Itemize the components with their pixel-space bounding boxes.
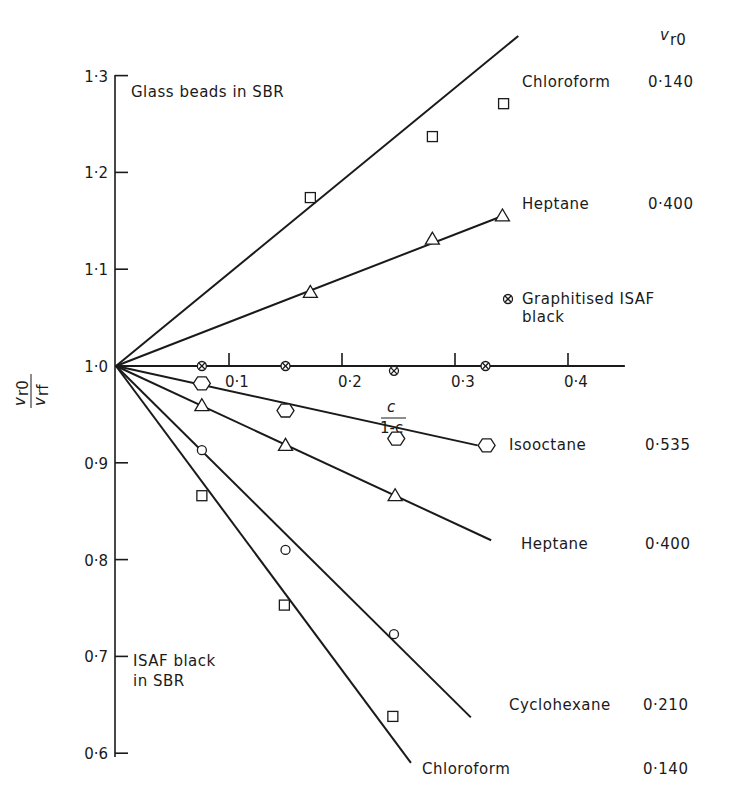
chart: 0·60·70·80·91·01·11·21·3 0·10·20·30·4 v … <box>0 0 731 802</box>
x-tick-label: 0·3 <box>451 373 475 391</box>
label-heptane-glass: Heptane <box>522 195 589 213</box>
vr0-column-header: v r0 <box>660 26 686 49</box>
y-tick-label: 0·8 <box>84 552 108 570</box>
fit-line <box>116 366 411 763</box>
triangle-marker <box>495 209 509 221</box>
circle-cross-marker <box>281 362 290 371</box>
label-chloroform-glass: Chloroform <box>522 73 610 91</box>
x-tick-label: 0·4 <box>564 373 588 391</box>
circle-cross-marker <box>481 362 490 371</box>
value-heptane-isaf: 0·400 <box>645 535 690 553</box>
data-markers <box>193 99 512 722</box>
value-heptane-glass: 0·400 <box>648 195 693 213</box>
x-axis-label: c 1-c <box>380 398 406 437</box>
circle-cross-legend-icon <box>504 295 513 304</box>
y-tick-label: 1·2 <box>84 164 108 182</box>
y-tick-label: 0·7 <box>84 648 108 666</box>
y-tick-label: 0·6 <box>84 745 108 763</box>
y-tick-label: 1·0 <box>84 358 108 376</box>
value-chloroform-glass: 0·140 <box>648 73 693 91</box>
square-marker <box>499 99 509 109</box>
series-labels: Chloroform 0·140 Heptane 0·400 Graphitis… <box>422 73 693 778</box>
svg-text:v: v <box>31 396 49 406</box>
circle-marker <box>281 545 290 554</box>
svg-text:c: c <box>387 398 396 416</box>
hexagon-marker <box>277 404 294 417</box>
x-tick-label: 0·2 <box>338 373 362 391</box>
circle-marker <box>389 630 398 639</box>
y-axis-label: v r0 v rf <box>11 374 52 408</box>
svg-text:r0: r0 <box>670 31 686 49</box>
hexagon-marker <box>478 439 495 452</box>
triangle-marker <box>388 489 402 501</box>
x-tick-label: 0·1 <box>225 373 249 391</box>
annotation-isaf-black-2: in SBR <box>133 672 185 690</box>
label-heptane-isaf: Heptane <box>521 535 588 553</box>
label-chloroform-isaf: Chloroform <box>422 760 510 778</box>
svg-text:r0: r0 <box>14 380 32 396</box>
triangle-marker <box>425 232 439 244</box>
value-cyclohexane: 0·210 <box>643 696 688 714</box>
square-marker <box>279 600 289 610</box>
fit-line <box>116 366 491 540</box>
y-tick-label: 0·9 <box>84 455 108 473</box>
hexagon-marker <box>193 377 210 390</box>
svg-text:v: v <box>11 396 29 406</box>
square-marker <box>197 491 207 501</box>
circle-marker <box>197 446 206 455</box>
hexagon-marker <box>388 432 405 445</box>
label-graphitised-2: black <box>522 308 564 326</box>
value-isooctane: 0·535 <box>645 436 690 454</box>
svg-text:rf: rf <box>34 384 52 396</box>
square-marker <box>388 711 398 721</box>
y-ticks: 0·60·70·80·91·01·11·21·3 <box>84 68 128 764</box>
y-tick-label: 1·1 <box>84 261 108 279</box>
triangle-marker <box>279 438 293 450</box>
circle-cross-marker <box>389 366 398 375</box>
fit-line <box>116 366 478 445</box>
y-tick-label: 1·3 <box>84 68 108 86</box>
label-cyclohexane: Cyclohexane <box>509 696 611 714</box>
label-graphitised-1: Graphitised ISAF <box>522 290 655 308</box>
square-marker <box>305 193 315 203</box>
circle-cross-marker <box>197 362 206 371</box>
label-isooctane: Isooctane <box>509 436 586 454</box>
annotation-glass-beads: Glass beads in SBR <box>131 83 284 101</box>
square-marker <box>427 132 437 142</box>
value-chloroform-isaf: 0·140 <box>643 760 688 778</box>
svg-text:v: v <box>660 26 670 44</box>
x-ticks: 0·10·20·30·4 <box>225 353 588 391</box>
annotation-isaf-black-1: ISAF black <box>133 652 216 670</box>
